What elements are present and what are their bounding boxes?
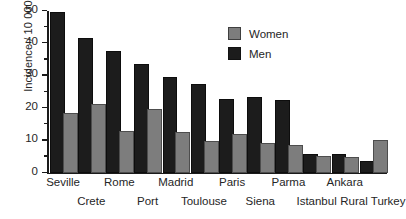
women-swatch-icon bbox=[228, 27, 241, 40]
bar-group bbox=[105, 11, 133, 173]
bar-women bbox=[344, 157, 359, 173]
y-tick-0: 0 bbox=[42, 172, 47, 174]
bar-chart-figure: Incidence / 10 000 01020304050 SevilleCr… bbox=[0, 0, 406, 219]
y-tick-label: 20 bbox=[25, 100, 38, 112]
bar-group bbox=[162, 11, 190, 173]
y-tick-20: 20 bbox=[42, 107, 47, 109]
x-axis-label: Parma bbox=[271, 176, 305, 188]
x-axis-label: Port bbox=[137, 195, 158, 207]
bar-women bbox=[175, 132, 190, 173]
men-swatch-icon bbox=[228, 47, 241, 60]
y-tick-minor bbox=[44, 91, 47, 93]
y-tick-minor bbox=[44, 26, 47, 28]
x-axis-label: Madrid bbox=[158, 176, 193, 188]
x-axis-label: Rome bbox=[104, 176, 135, 188]
bar-women bbox=[119, 131, 134, 174]
y-tick-label: 30 bbox=[25, 67, 38, 79]
y-tick-30: 30 bbox=[42, 74, 47, 76]
bar-group bbox=[190, 11, 218, 173]
bar-women bbox=[316, 156, 331, 173]
x-axis-label: Rural Turkey bbox=[340, 195, 405, 207]
bar-women bbox=[373, 140, 388, 173]
y-tick-label: 10 bbox=[25, 132, 38, 144]
bar-women bbox=[232, 134, 247, 173]
y-tick-10: 10 bbox=[42, 139, 47, 141]
x-axis-label: Paris bbox=[219, 176, 245, 188]
bar-women bbox=[63, 113, 78, 173]
x-axis-label: Ankara bbox=[327, 176, 363, 188]
legend-label-men: Men bbox=[249, 48, 271, 60]
plot-area: 01020304050 bbox=[47, 11, 387, 173]
x-axis-label: Siena bbox=[246, 195, 275, 207]
y-tick-minor bbox=[44, 58, 47, 60]
x-axis-label: Crete bbox=[77, 195, 105, 207]
bar-group bbox=[77, 11, 105, 173]
bar-women bbox=[260, 143, 275, 173]
bar-women bbox=[147, 109, 162, 173]
bar-women bbox=[204, 141, 219, 173]
y-tick-label: 50 bbox=[25, 3, 38, 15]
y-tick-label: 40 bbox=[25, 35, 38, 47]
bar-group bbox=[303, 11, 331, 173]
y-tick-50: 50 bbox=[42, 10, 47, 12]
legend-item-women: Women bbox=[228, 25, 288, 42]
y-tick-minor bbox=[44, 155, 47, 157]
bar-group bbox=[359, 11, 387, 173]
bar-group bbox=[49, 11, 77, 173]
x-axis-label: Seville bbox=[46, 176, 80, 188]
x-axis-label: Toulouse bbox=[181, 195, 227, 207]
bar-women bbox=[288, 145, 303, 173]
y-tick-minor bbox=[44, 123, 47, 125]
y-tick-label: 0 bbox=[32, 165, 38, 177]
bar-women bbox=[91, 104, 106, 173]
x-axis-labels: SevilleCreteRomePortMadridToulouseParisS… bbox=[47, 176, 387, 218]
bar-series-container bbox=[49, 11, 387, 173]
x-axis-label: Istanbul bbox=[296, 195, 336, 207]
bar-group bbox=[331, 11, 359, 173]
y-tick-40: 40 bbox=[42, 42, 47, 44]
chart-legend: Women Men bbox=[228, 25, 288, 65]
legend-item-men: Men bbox=[228, 45, 288, 62]
bar-group bbox=[134, 11, 162, 173]
legend-label-women: Women bbox=[249, 28, 288, 40]
